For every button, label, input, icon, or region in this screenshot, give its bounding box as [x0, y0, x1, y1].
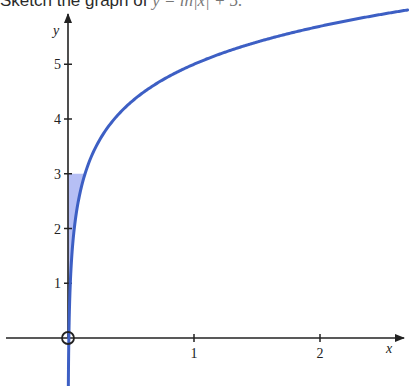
y-tick-label: 1	[54, 276, 61, 291]
x-tick-label: 1	[191, 346, 198, 361]
y-tick-label: 4	[54, 112, 61, 127]
curve-ln-x-plus-5	[68, 10, 407, 386]
y-tick-label: 2	[54, 222, 61, 237]
x-axis-label: x	[385, 341, 393, 356]
y-tick-label: 3	[54, 167, 61, 182]
y-axis-label: y	[51, 23, 60, 38]
y-tick-label: 5	[54, 57, 61, 72]
function-graph: 12 12345 x y	[0, 0, 411, 386]
x-tick-label: 2	[317, 346, 324, 361]
